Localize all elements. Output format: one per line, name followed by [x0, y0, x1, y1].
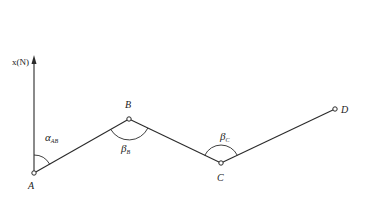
- angle-arc-alpha-AB: [34, 155, 50, 164]
- angle-label-beta-C: βC: [219, 130, 230, 143]
- segment-BC: [129, 119, 221, 163]
- station-point-B: [127, 117, 131, 121]
- point-label-D: D: [340, 104, 349, 115]
- station-point-C: [219, 161, 223, 165]
- traverse-diagram: x(N) A B C D αAB βB βC: [0, 0, 367, 203]
- point-label-B: B: [125, 99, 131, 110]
- point-label-A: A: [27, 180, 35, 191]
- angle-label-beta-B: βB: [120, 142, 130, 155]
- north-arrow-icon: [32, 55, 37, 64]
- point-label-C: C: [217, 172, 224, 183]
- station-point-A: [32, 171, 36, 175]
- north-axis-label: x(N): [12, 57, 29, 67]
- angle-arc-beta-B: [111, 128, 148, 140]
- segment-AB: [34, 119, 129, 173]
- segment-CD: [221, 109, 335, 163]
- angle-arc-beta-C: [205, 145, 238, 155]
- angle-label-alpha-AB: αAB: [45, 131, 58, 144]
- station-point-D: [333, 107, 337, 111]
